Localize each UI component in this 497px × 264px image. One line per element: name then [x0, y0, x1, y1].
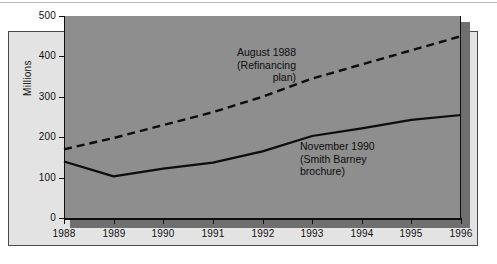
series-overlay — [0, 0, 497, 264]
chart-figure: Millions 0100200300400500 19881989199019… — [0, 0, 497, 264]
annotation-august-1988: August 1988 (Refinancing plan) — [176, 46, 296, 84]
annotation-november-1990: November 1990 (Smith Barney brochure) — [300, 140, 430, 178]
